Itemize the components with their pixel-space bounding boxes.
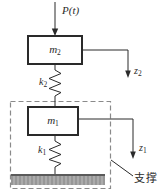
displacement-z2-label: z2	[134, 65, 142, 77]
displacement-z1-arrowhead-icon	[130, 152, 136, 160]
displacement-z2-arrowhead-icon	[125, 71, 131, 79]
spring-k2	[49, 64, 61, 107]
force-label: P(t)	[62, 4, 79, 16]
support-label: 支撑	[134, 172, 158, 184]
diagram-linework	[0, 0, 160, 194]
mass-m2-label: m2	[28, 43, 82, 55]
spring-k1-label: k1	[38, 144, 46, 156]
mass-m1-label: m1	[28, 114, 78, 126]
spring-k1	[49, 135, 61, 174]
displacement-z2-line	[82, 50, 128, 72]
spring-k2-label: k2	[39, 76, 47, 88]
force-arrowhead-icon	[52, 29, 58, 37]
support-leader-line	[111, 160, 133, 176]
displacement-z1-label: z1	[139, 142, 147, 154]
displacement-z1-line	[78, 119, 133, 153]
mass-spring-diagram: P(t) m2 k2 z2 m1 k1 z1 支撑	[0, 0, 160, 194]
